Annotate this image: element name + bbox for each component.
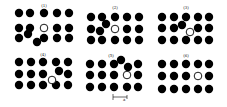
atom-icon	[158, 24, 166, 32]
atom-icon	[170, 85, 178, 93]
atom-icon	[65, 24, 73, 32]
atom-icon	[98, 83, 106, 91]
atom-icon	[53, 9, 61, 17]
atom-icon	[182, 36, 190, 44]
panel-label: (4)	[40, 52, 46, 57]
atom-icon	[123, 25, 131, 33]
scale-bar-label: a	[123, 97, 126, 102]
atom-icon	[64, 58, 72, 66]
atom-icon	[134, 71, 142, 79]
atom-icon	[135, 36, 143, 44]
atom-icon	[123, 13, 131, 21]
atom-icon	[170, 24, 178, 32]
vacancy-icon	[48, 76, 56, 84]
atom-icon	[123, 83, 131, 91]
atom-icon	[98, 60, 106, 68]
atom-icon	[205, 36, 213, 44]
atom-icon	[110, 71, 118, 79]
atom-icon	[205, 85, 213, 93]
atom-icon	[27, 58, 35, 66]
panel-label: (1)	[41, 3, 47, 8]
atom-icon	[15, 9, 23, 17]
atom-icon	[135, 25, 143, 33]
atom-icon	[117, 56, 125, 64]
vacancy-icon	[111, 25, 119, 33]
atom-icon	[15, 24, 23, 32]
atom-icon	[64, 70, 72, 78]
atom-icon	[158, 13, 166, 21]
atom-icon	[111, 13, 119, 21]
atom-icon	[39, 81, 47, 89]
atom-icon	[170, 13, 178, 21]
atom-icon	[205, 60, 213, 68]
atom-icon	[124, 63, 132, 71]
atom-icon	[102, 20, 110, 28]
vacancy-icon	[123, 71, 131, 79]
vacancy-icon	[194, 72, 202, 80]
atom-icon	[15, 34, 23, 42]
atom-icon	[53, 24, 61, 32]
atom-icon	[182, 13, 190, 21]
atom-icon	[205, 24, 213, 32]
atom-icon	[86, 60, 94, 68]
atom-icon	[40, 9, 48, 17]
vacancy-icon	[186, 28, 194, 36]
atom-icon	[182, 60, 190, 68]
panel-2: (2)	[87, 5, 143, 44]
panels-group: (1)(2)(3)(4)(5)(6)	[15, 3, 213, 93]
atom-icon	[15, 81, 23, 89]
atom-icon	[110, 83, 118, 91]
panel-label: (2)	[112, 5, 118, 10]
atom-icon	[98, 71, 106, 79]
atom-icon	[111, 36, 119, 44]
atom-icon	[87, 36, 95, 44]
atom-icon	[134, 83, 142, 91]
vacancy-diffusion-diagram: (1)(2)(3)(4)(5)(6) a	[0, 0, 227, 107]
atom-icon	[65, 9, 73, 17]
atom-icon	[178, 21, 186, 29]
atom-icon	[170, 72, 178, 80]
atom-icon	[55, 67, 63, 75]
atom-icon	[194, 85, 202, 93]
atom-icon	[27, 81, 35, 89]
atom-icon	[194, 13, 202, 21]
atom-icon	[182, 72, 190, 80]
atom-icon	[158, 60, 166, 68]
atom-icon	[123, 36, 131, 44]
atom-icon	[158, 85, 166, 93]
panel-5: (5)	[86, 53, 142, 91]
panel-label: (5)	[108, 53, 114, 58]
atom-icon	[87, 13, 95, 21]
atom-icon	[52, 58, 60, 66]
atom-icon	[205, 13, 213, 21]
atom-icon	[135, 13, 143, 21]
vacancy-icon	[40, 24, 48, 32]
atom-icon	[158, 36, 166, 44]
atom-icon	[39, 58, 47, 66]
atom-icon	[64, 81, 72, 89]
panel-6: (6)	[158, 53, 213, 93]
atom-icon	[86, 71, 94, 79]
atom-icon	[15, 70, 23, 78]
atom-icon	[86, 83, 94, 91]
atom-icon	[87, 25, 95, 33]
atom-icon	[194, 60, 202, 68]
atom-icon	[134, 60, 142, 68]
atom-icon	[40, 34, 48, 42]
atom-icon	[96, 27, 104, 35]
atom-icon	[39, 70, 47, 78]
atom-icon	[15, 58, 23, 66]
atom-icon	[205, 72, 213, 80]
atom-icon	[26, 9, 34, 17]
atom-icon	[24, 30, 32, 38]
panel-3: (3)	[158, 5, 213, 44]
panel-label: (6)	[183, 53, 189, 58]
atom-icon	[182, 85, 190, 93]
atom-icon	[65, 34, 73, 42]
atom-icon	[170, 60, 178, 68]
panel-label: (3)	[183, 5, 189, 10]
atom-icon	[170, 36, 178, 44]
atom-icon	[194, 24, 202, 32]
atom-icon	[53, 34, 61, 42]
atom-icon	[98, 36, 106, 44]
